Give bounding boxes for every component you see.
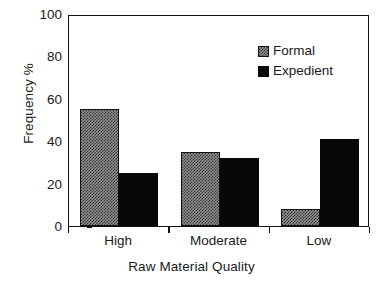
x-tick-label-low: Low <box>306 233 331 248</box>
legend-item-formal: Formal <box>258 41 370 61</box>
bar-high-expedient <box>119 173 158 226</box>
x-tick-mark <box>68 227 69 233</box>
chart-legend: Formal Expedient <box>258 41 370 81</box>
x-tick-label-high: High <box>104 233 132 248</box>
bar-moderate-expedient <box>220 158 259 226</box>
y-tick-label: 20 <box>28 178 62 192</box>
y-tick-label: 80 <box>28 51 62 65</box>
legend-swatch-expedient-icon <box>258 66 269 77</box>
x-tick-mark <box>369 227 370 233</box>
y-axis-tick-labels: 020406080100 <box>24 0 62 289</box>
bar-moderate-formal <box>181 152 220 226</box>
bar-high-formal <box>80 109 119 226</box>
bar-low-expedient <box>320 139 359 226</box>
x-axis-title: Raw Material Quality <box>0 259 383 274</box>
y-tick-mark <box>87 227 92 228</box>
y-tick-label: 60 <box>28 93 62 107</box>
bar-chart-figure: Frequency % 020406080100 HighModerateLow… <box>0 0 383 289</box>
y-tick-label: 0 <box>28 220 62 234</box>
x-tick-label-moderate: Moderate <box>190 233 247 248</box>
legend-swatch-formal-icon <box>258 46 269 57</box>
y-tick-label: 100 <box>28 8 62 22</box>
x-tick-mark <box>168 227 169 233</box>
legend-item-expedient: Expedient <box>258 61 370 81</box>
y-tick-label: 40 <box>28 135 62 149</box>
x-tick-mark <box>269 227 270 233</box>
legend-label-expedient: Expedient <box>273 64 333 78</box>
bar-low-formal <box>281 209 320 226</box>
legend-label-formal: Formal <box>273 44 315 58</box>
